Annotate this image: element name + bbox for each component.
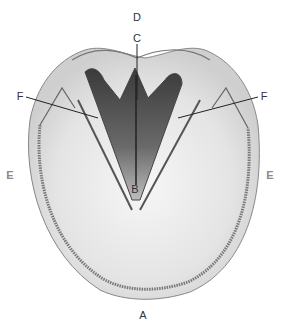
hoof-diagram: A B C D E E F F bbox=[0, 0, 292, 327]
label-A: A bbox=[139, 310, 146, 321]
label-F-left: F bbox=[17, 91, 24, 102]
label-E-left: E bbox=[6, 170, 13, 181]
label-F-right: F bbox=[261, 91, 268, 102]
label-E-right: E bbox=[266, 170, 273, 181]
label-B: B bbox=[131, 184, 138, 195]
hoof-illustration bbox=[0, 0, 292, 327]
label-D: D bbox=[133, 12, 141, 23]
label-C: C bbox=[133, 33, 141, 44]
